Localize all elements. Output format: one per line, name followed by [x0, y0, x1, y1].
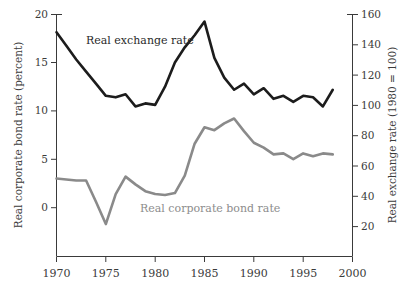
x-tick-label: 1970: [43, 267, 71, 280]
left-tick-group: 0: [41, 201, 56, 213]
left-tick-label: 20: [35, 8, 48, 20]
annotation-real-corporate-bond-rate: Real corporate bond rate: [140, 202, 280, 215]
left-tick-label: 5: [41, 153, 48, 165]
right-tick-label: 20: [361, 220, 374, 232]
axes-frame: [57, 14, 353, 257]
left-tick-label: 0: [41, 201, 48, 213]
right-tick-label: 100: [361, 99, 381, 111]
x-tick-group: 1975: [92, 257, 120, 281]
left-tick-label: 15: [35, 56, 48, 68]
right-tick-group: 40: [353, 190, 375, 202]
x-tick-group: 1980: [141, 257, 169, 281]
right-tick-group: 80: [353, 129, 375, 141]
figure-container: 20 15 10 5 0 160: [0, 0, 410, 298]
left-tick-group: 20: [35, 8, 57, 20]
right-axis-ticks: 160 140 120 100 80 60: [353, 8, 382, 232]
right-tick-label: 120: [361, 69, 381, 81]
right-tick-label: 40: [361, 190, 374, 202]
right-tick-group: 20: [353, 220, 375, 232]
right-tick-group: 160: [353, 8, 382, 20]
left-tick-group: 5: [41, 153, 56, 165]
x-tick-label: 1990: [240, 267, 268, 280]
x-tick-label: 1985: [191, 267, 219, 280]
x-tick-label: 2000: [339, 267, 367, 280]
x-tick-group: 1995: [289, 257, 317, 281]
right-tick-label: 140: [361, 38, 381, 50]
x-tick-group: 2000: [339, 257, 367, 281]
right-tick-label: 160: [361, 8, 381, 20]
x-tick-group: 1985: [191, 257, 219, 281]
left-tick-label: 10: [35, 104, 48, 116]
right-tick-group: 140: [353, 38, 382, 50]
bottom-axis-ticks: 1970 1975 1980 1985 1990 1995: [43, 257, 367, 281]
annotation-real-exchange-rate: Real exchange rate: [86, 34, 194, 47]
left-axis-title: Real corporate bond rate (percent): [12, 42, 24, 229]
right-tick-label: 80: [361, 129, 374, 141]
right-tick-label: 60: [361, 160, 374, 172]
x-tick-label: 1975: [92, 267, 120, 280]
x-tick-label: 1995: [289, 267, 317, 280]
chart-canvas: 20 15 10 5 0 160: [0, 0, 410, 298]
left-axis-ticks: 20 15 10 5 0: [35, 8, 57, 213]
right-axis-title: Real exchange rate (1980 = 100): [386, 47, 398, 224]
left-tick-group: 10: [35, 104, 57, 116]
right-tick-group: 100: [353, 99, 382, 111]
right-tick-group: 120: [353, 69, 382, 81]
x-tick-group: 1990: [240, 257, 268, 281]
x-tick-group: 1970: [43, 257, 71, 281]
right-tick-group: 60: [353, 160, 375, 172]
x-tick-label: 1980: [141, 267, 169, 280]
left-tick-group: 15: [35, 56, 57, 68]
